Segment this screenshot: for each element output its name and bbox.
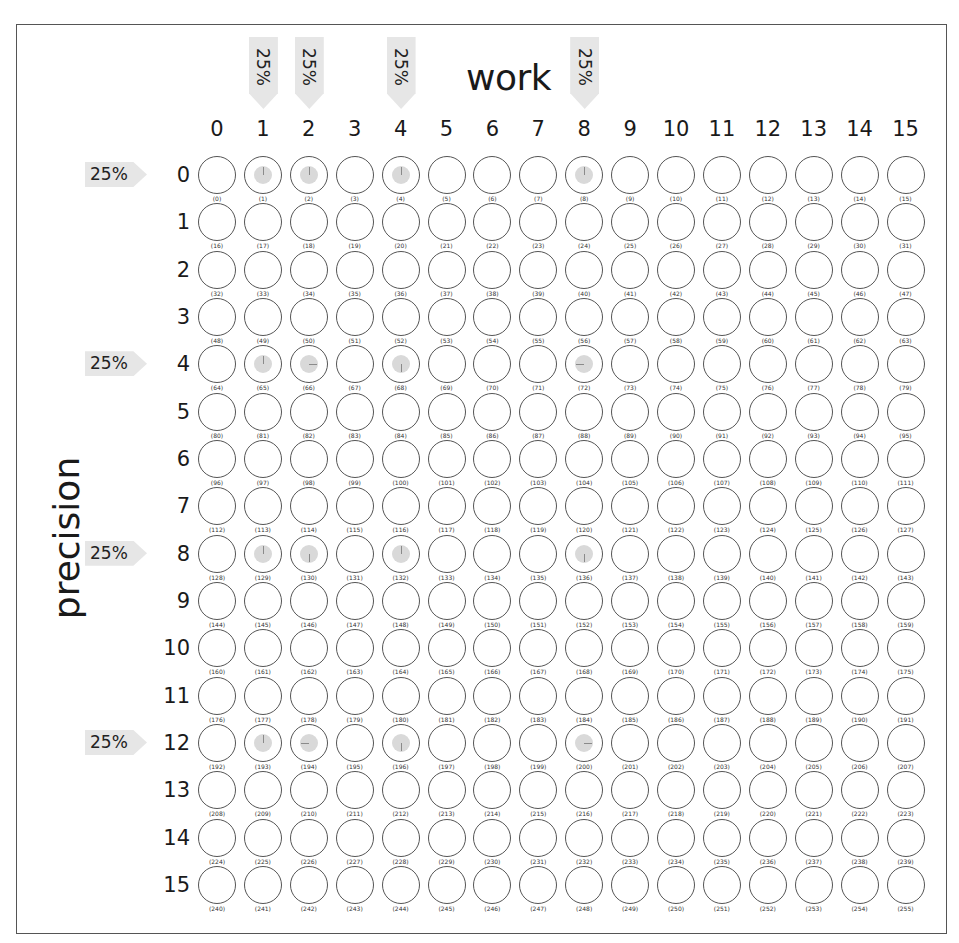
grid-cell[interactable] <box>841 345 879 383</box>
grid-cell[interactable] <box>336 677 374 715</box>
grid-cell[interactable] <box>749 771 787 809</box>
grid-cell[interactable] <box>290 487 328 525</box>
grid-cell[interactable] <box>428 771 466 809</box>
grid-cell[interactable] <box>841 629 879 667</box>
grid-cell[interactable] <box>244 203 282 241</box>
grid-cell[interactable] <box>519 393 557 431</box>
grid-cell[interactable] <box>795 487 833 525</box>
grid-cell[interactable] <box>336 440 374 478</box>
grid-cell[interactable] <box>795 535 833 573</box>
grid-cell[interactable] <box>519 866 557 904</box>
grid-cell[interactable] <box>428 819 466 857</box>
grid-cell[interactable] <box>519 819 557 857</box>
grid-cell[interactable] <box>841 819 879 857</box>
grid-cell[interactable] <box>795 819 833 857</box>
grid-cell[interactable] <box>198 866 236 904</box>
grid-cell[interactable] <box>887 582 925 620</box>
grid-cell[interactable] <box>382 251 420 289</box>
grid-cell[interactable] <box>382 819 420 857</box>
grid-cell[interactable] <box>703 156 741 194</box>
grid-cell[interactable] <box>428 535 466 573</box>
grid-cell[interactable] <box>244 629 282 667</box>
grid-cell[interactable] <box>611 440 649 478</box>
grid-cell[interactable] <box>198 298 236 336</box>
grid-cell[interactable] <box>841 393 879 431</box>
grid-cell[interactable] <box>428 298 466 336</box>
grid-cell[interactable] <box>657 582 695 620</box>
grid-cell[interactable] <box>428 866 466 904</box>
grid-cell[interactable] <box>703 393 741 431</box>
grid-cell[interactable] <box>749 866 787 904</box>
grid-cell-filled[interactable] <box>565 535 603 573</box>
grid-cell[interactable] <box>428 440 466 478</box>
grid-cell[interactable] <box>841 440 879 478</box>
grid-cell[interactable] <box>244 771 282 809</box>
grid-cell[interactable] <box>290 629 328 667</box>
grid-cell[interactable] <box>519 251 557 289</box>
grid-cell-filled[interactable] <box>382 535 420 573</box>
grid-cell[interactable] <box>703 866 741 904</box>
grid-cell[interactable] <box>565 251 603 289</box>
grid-cell[interactable] <box>703 203 741 241</box>
grid-cell[interactable] <box>795 629 833 667</box>
grid-cell[interactable] <box>198 393 236 431</box>
grid-cell[interactable] <box>841 298 879 336</box>
grid-cell[interactable] <box>841 156 879 194</box>
grid-cell[interactable] <box>795 203 833 241</box>
grid-cell[interactable] <box>290 582 328 620</box>
grid-cell[interactable] <box>887 298 925 336</box>
grid-cell[interactable] <box>887 677 925 715</box>
grid-cell[interactable] <box>428 582 466 620</box>
grid-cell[interactable] <box>519 724 557 762</box>
grid-cell[interactable] <box>611 298 649 336</box>
grid-cell[interactable] <box>841 251 879 289</box>
grid-cell[interactable] <box>611 251 649 289</box>
grid-cell[interactable] <box>428 629 466 667</box>
grid-cell[interactable] <box>749 487 787 525</box>
grid-cell[interactable] <box>428 251 466 289</box>
grid-cell[interactable] <box>382 298 420 336</box>
grid-cell[interactable] <box>841 677 879 715</box>
grid-cell[interactable] <box>611 393 649 431</box>
grid-cell[interactable] <box>703 535 741 573</box>
grid-cell[interactable] <box>336 487 374 525</box>
grid-cell[interactable] <box>749 582 787 620</box>
grid-cell[interactable] <box>841 203 879 241</box>
grid-cell[interactable] <box>841 866 879 904</box>
grid-cell[interactable] <box>290 298 328 336</box>
grid-cell[interactable] <box>244 440 282 478</box>
grid-cell[interactable] <box>887 203 925 241</box>
grid-cell[interactable] <box>382 771 420 809</box>
grid-cell[interactable] <box>749 819 787 857</box>
grid-cell[interactable] <box>795 393 833 431</box>
grid-cell[interactable] <box>382 393 420 431</box>
grid-cell[interactable] <box>290 203 328 241</box>
grid-cell[interactable] <box>657 819 695 857</box>
grid-cell[interactable] <box>703 771 741 809</box>
grid-cell-filled[interactable] <box>290 345 328 383</box>
grid-cell[interactable] <box>382 203 420 241</box>
grid-cell[interactable] <box>749 393 787 431</box>
grid-cell[interactable] <box>795 582 833 620</box>
grid-cell[interactable] <box>795 345 833 383</box>
grid-cell[interactable] <box>749 724 787 762</box>
grid-cell[interactable] <box>428 345 466 383</box>
grid-cell[interactable] <box>749 156 787 194</box>
grid-cell[interactable] <box>657 298 695 336</box>
grid-cell[interactable] <box>428 677 466 715</box>
grid-cell[interactable] <box>428 724 466 762</box>
grid-cell[interactable] <box>749 203 787 241</box>
grid-cell[interactable] <box>657 677 695 715</box>
grid-cell[interactable] <box>382 677 420 715</box>
grid-cell[interactable] <box>841 535 879 573</box>
grid-cell[interactable] <box>887 724 925 762</box>
grid-cell[interactable] <box>887 535 925 573</box>
grid-cell[interactable] <box>519 440 557 478</box>
grid-cell[interactable] <box>336 771 374 809</box>
grid-cell[interactable] <box>244 251 282 289</box>
grid-cell[interactable] <box>749 440 787 478</box>
grid-cell[interactable] <box>428 203 466 241</box>
grid-cell[interactable] <box>244 582 282 620</box>
grid-cell[interactable] <box>657 724 695 762</box>
grid-cell[interactable] <box>336 724 374 762</box>
